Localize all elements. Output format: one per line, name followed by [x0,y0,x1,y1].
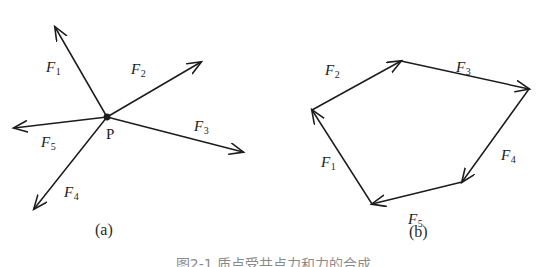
vector-a-f5 [14,117,107,128]
origin-dot-group [104,114,111,121]
label-b-f1: F1 [321,155,335,170]
label-b-f4: F4 [501,148,515,163]
vector-b-f4 [462,89,529,182]
figure-caption: 图2-1 质点受共点力和力的合成 [0,257,547,267]
panel-caption-a: (a) [95,222,113,238]
label-b-f3: F3 [456,60,470,75]
vector-b-f5 [372,182,462,204]
label-b-f2: F2 [325,63,339,78]
vector-a-f1 [55,27,107,117]
vector-a-f2 [107,62,201,117]
point-label-p: P [106,127,114,142]
label-a-f3: F3 [194,119,208,134]
label-a-f1: F1 [46,60,60,75]
panel-caption-b: (b) [409,224,428,240]
vector-arrow-group [14,27,529,209]
label-a-f4: F4 [64,185,78,200]
vector-canvas [0,0,547,267]
origin-point-a [104,114,111,121]
vector-a-f3 [107,117,243,152]
label-a-f2: F2 [131,62,145,77]
label-a-f5: F5 [41,135,55,150]
force-vector-figure: F1F2F3F4F5P(a)F1F2F3F4F5(b) 图2-1 质点受共点力和… [0,0,547,267]
